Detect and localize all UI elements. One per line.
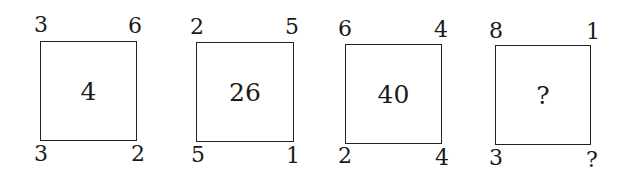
bottom-left-number: 3 [484,147,508,169]
bottom-right-number: 2 [126,143,150,165]
top-left-number: 2 [185,16,209,38]
center-unknown: ? [496,81,590,110]
square-frame: ? [495,45,591,145]
top-right-number: 5 [280,16,304,38]
square-frame: 40 [345,44,442,144]
bottom-right-unknown: ? [580,149,604,171]
center-number: 26 [197,78,293,107]
bottom-right-number: 4 [430,147,454,169]
top-right-number: 4 [429,19,453,41]
top-left-number: 8 [484,20,508,42]
bottom-left-number: 2 [333,145,357,167]
center-number: 40 [346,80,441,109]
bottom-left-number: 3 [29,143,53,165]
top-left-number: 3 [29,14,53,36]
bottom-right-number: 1 [281,145,305,167]
square-frame: 26 [196,42,294,142]
bottom-left-number: 5 [186,144,210,166]
top-right-number: 6 [123,15,147,37]
square-frame: 4 [40,41,137,141]
top-right-number: 1 [581,21,605,43]
top-left-number: 6 [333,18,357,40]
center-number: 4 [41,77,136,106]
